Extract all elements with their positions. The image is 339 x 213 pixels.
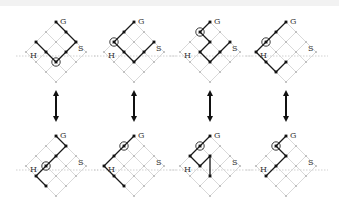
grid-node (35, 61, 37, 63)
path-node (219, 51, 222, 54)
path-node (189, 155, 192, 158)
grid-node (285, 175, 287, 177)
path-node (209, 175, 212, 178)
grid-node (163, 165, 165, 167)
grid-node (229, 175, 231, 177)
grid-node (285, 81, 287, 83)
lattice-path-diagram: SGHSGHSGHSGHSGHSGHSGHSGH (0, 0, 339, 213)
path-node (209, 41, 212, 44)
path-node (123, 145, 126, 148)
grid-node (25, 51, 27, 53)
path-node (113, 175, 116, 178)
grid-node (239, 51, 241, 53)
lattice-panel-top-1: SGH (16, 17, 98, 83)
grid-node (265, 155, 267, 157)
path-node (209, 21, 212, 24)
grid-node (75, 61, 77, 63)
label-start: S (232, 158, 237, 167)
label-hit: H (30, 165, 37, 174)
grid-node (219, 165, 221, 167)
grid-node (305, 155, 307, 157)
grid-node (133, 41, 135, 43)
grid-node (153, 155, 155, 157)
label-hit: H (108, 51, 115, 60)
path-node (199, 165, 202, 168)
path-node (113, 155, 116, 158)
path-node (285, 21, 288, 24)
grid-node (315, 165, 317, 167)
grid-node (35, 155, 37, 157)
grid-node (209, 81, 211, 83)
grid-node (295, 185, 297, 187)
path-node (133, 135, 136, 138)
grid-node (75, 175, 77, 177)
grid-node (133, 155, 135, 157)
path-node (55, 135, 58, 138)
grid-node (179, 51, 181, 53)
path-node (275, 145, 278, 148)
path-node (75, 41, 78, 44)
lattice-panel-top-4: SGH (246, 17, 328, 83)
path-node (35, 175, 38, 178)
label-start: S (308, 158, 313, 167)
label-start: S (232, 44, 237, 53)
label-goal: G (138, 17, 144, 26)
path-node (153, 41, 156, 44)
path-node (209, 155, 212, 158)
grid-node (133, 175, 135, 177)
grid-node (305, 175, 307, 177)
grid-node (219, 31, 221, 33)
grid-node (285, 195, 287, 197)
lattice-panel-top-3: SGH (170, 17, 252, 83)
grid-node (55, 41, 57, 43)
grid-node (189, 41, 191, 43)
path-node (133, 21, 136, 24)
lattice-panel-bottom-1: SGH (16, 131, 98, 197)
path-node (65, 31, 68, 34)
grid-node (199, 71, 201, 73)
grid-node (163, 51, 165, 53)
path-node (35, 41, 38, 44)
path-node (229, 41, 232, 44)
grid-node (143, 165, 145, 167)
grid-node (75, 155, 77, 157)
lattice-panel-bottom-2: SGH (94, 131, 176, 197)
path-node (45, 165, 48, 168)
grid-node (65, 165, 67, 167)
grid-node (255, 165, 257, 167)
label-goal: G (214, 17, 220, 26)
label-start: S (78, 158, 83, 167)
path-node (285, 135, 288, 138)
grid-node (305, 41, 307, 43)
double-arrow-icon (207, 90, 213, 122)
double-arrow-icon (53, 90, 59, 122)
lattice-panel-top-2: SGH (94, 17, 176, 83)
label-start: S (308, 44, 313, 53)
path-node (123, 185, 126, 188)
path-node (209, 61, 212, 64)
path-node (255, 51, 258, 54)
grid-node (295, 31, 297, 33)
grid-node (295, 145, 297, 147)
grid-node (153, 175, 155, 177)
path-node (285, 61, 288, 64)
grid-node (65, 185, 67, 187)
label-hit: H (30, 51, 37, 60)
grid-node (55, 195, 57, 197)
grid-node (219, 71, 221, 73)
label-start: S (78, 44, 83, 53)
path-node (143, 51, 146, 54)
grid-node (123, 165, 125, 167)
label-hit: H (260, 51, 267, 60)
grid-node (199, 185, 201, 187)
path-node (65, 51, 68, 54)
path-node (123, 51, 126, 54)
path-node (55, 155, 58, 158)
grid-node (295, 165, 297, 167)
grid-node (45, 71, 47, 73)
double-arrow-icon (283, 90, 289, 122)
grid-node (113, 61, 115, 63)
label-hit: H (184, 165, 191, 174)
path-node (209, 135, 212, 138)
path-node (199, 51, 202, 54)
